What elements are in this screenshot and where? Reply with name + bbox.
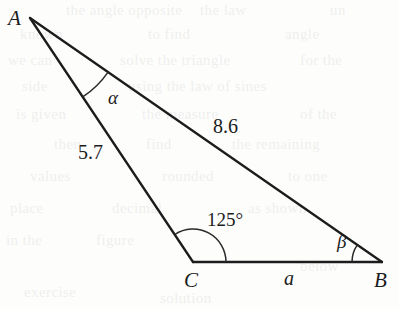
side-length-label-ac: 5.7 xyxy=(78,142,103,162)
angle-arc-beta xyxy=(352,245,357,262)
angle-label-beta: β xyxy=(337,232,346,251)
side-length-label-ab: 8.6 xyxy=(213,116,238,136)
vertex-label-c: C xyxy=(184,270,198,291)
side-length-label-cb: a xyxy=(284,268,294,288)
vertex-label-b: B xyxy=(374,270,387,291)
angle-arc-alpha xyxy=(83,72,108,97)
vertex-label-a: A xyxy=(8,8,21,29)
triangle-side-ac xyxy=(30,18,193,262)
triangle-drawing xyxy=(0,0,399,309)
angle-label-alpha: α xyxy=(108,88,118,107)
triangle-figure: the angle oppositethe lawunknownto finda… xyxy=(0,0,399,309)
triangle-side-ab xyxy=(30,18,382,262)
angle-label-125-degrees: 125° xyxy=(207,210,243,229)
